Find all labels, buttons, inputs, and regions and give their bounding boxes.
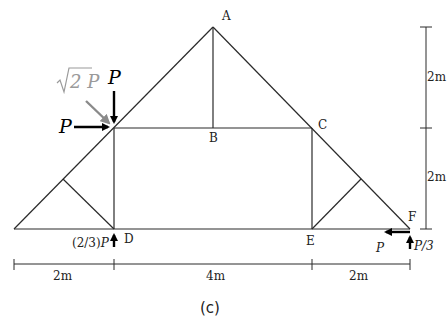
vertical-dimension: 2m 2m (420, 27, 447, 229)
dim-label-left: 2m (53, 269, 73, 283)
node-label-F: F (408, 210, 416, 224)
reaction-F-horizontal-label: P (375, 241, 385, 255)
node-label-E: E (306, 234, 315, 248)
member-right-brace (312, 179, 361, 229)
horizontal-load-label: P (58, 115, 73, 137)
vertical-load-label: P (107, 66, 122, 88)
node-label-C: C (318, 118, 327, 132)
truss-members (14, 27, 410, 229)
applied-loads: P P 2 P (57, 66, 122, 137)
dim-label-middle: 4m (206, 269, 226, 283)
node-label-D: D (124, 232, 134, 246)
resultant-load-arrow (86, 101, 109, 123)
dim-label-lower: 2m (427, 170, 447, 184)
resultant-load-text: 2 P (69, 71, 100, 92)
resultant-load-label: 2 P (57, 68, 100, 92)
node-label-B: B (209, 131, 218, 145)
reaction-F-vertical-label: P/3 (413, 239, 434, 253)
figure-caption: (c) (200, 299, 220, 317)
member-left-brace (63, 179, 114, 229)
reaction-D-label: (2/3)P (72, 236, 110, 250)
truss-diagram: A B C D E F P P 2 P (2/3)P P P/3 2m 4m 2… (0, 0, 448, 327)
node-label-A: A (221, 9, 231, 23)
dim-label-right: 2m (349, 269, 369, 283)
horizontal-dimension: 2m 4m 2m (14, 259, 410, 283)
dim-label-upper: 2m (427, 70, 447, 84)
